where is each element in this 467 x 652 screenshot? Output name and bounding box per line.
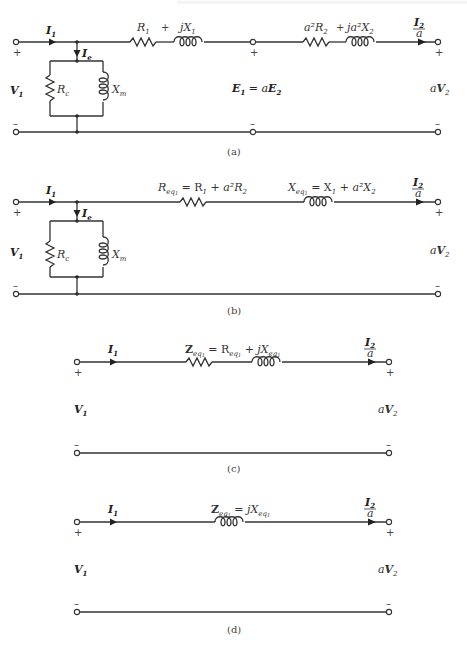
label-zeq1-expression: Zeq1 = jXeq1 bbox=[211, 503, 270, 518]
circuit-b: I1 Ie Rc Xm V1 Req1 = R1 + a²R2 Xeq1 = X… bbox=[10, 176, 450, 316]
resistor-req1-icon bbox=[180, 198, 206, 206]
excitation-current-arrow-icon bbox=[74, 50, 81, 57]
label-v1: V1 bbox=[10, 84, 23, 99]
label-ja2x2: ja²X2 bbox=[344, 21, 374, 36]
terminal-input-minus bbox=[13, 129, 18, 134]
svg-text:V1: V1 bbox=[74, 403, 87, 418]
label-jx1: jX1 bbox=[177, 21, 196, 36]
inductor-xeq1-icon bbox=[252, 357, 280, 366]
svg-text:aV2: aV2 bbox=[378, 403, 398, 418]
svg-text:a: a bbox=[367, 347, 374, 360]
current-arrow-icon bbox=[110, 359, 117, 366]
current-arrow-icon bbox=[49, 199, 56, 206]
label-a2r2: a²R2 bbox=[304, 21, 328, 36]
resistor-rc-icon bbox=[46, 75, 54, 101]
svg-text:+: + bbox=[13, 47, 21, 58]
caption-c: (c) bbox=[227, 463, 241, 474]
label-i2-over-a: I2 a bbox=[412, 176, 424, 200]
circuit-a: I1 Ie Rc Xm V1 R1 + jX1 a²R2 + ja²X2 E1 … bbox=[10, 16, 450, 157]
svg-text:I1: I1 bbox=[107, 343, 118, 358]
label-i1: I1 bbox=[45, 24, 56, 39]
label-rc: Rc bbox=[56, 83, 69, 98]
svg-text:–: – bbox=[435, 280, 440, 291]
caption-d: (d) bbox=[227, 624, 241, 635]
svg-text:aV2: aV2 bbox=[378, 563, 398, 578]
terminal-output-plus bbox=[435, 39, 440, 44]
svg-text:Ie: Ie bbox=[81, 207, 92, 222]
label-plus: + bbox=[336, 22, 344, 33]
label-req1-expression: Req1 = R1 + a²R2 bbox=[157, 181, 248, 196]
svg-text:–: – bbox=[74, 439, 79, 450]
svg-text:I1: I1 bbox=[45, 184, 56, 199]
label-av2: aV2 bbox=[430, 82, 450, 97]
label-e1-equals-ae2: E1 = aE2 bbox=[231, 82, 281, 97]
svg-text:a: a bbox=[416, 27, 423, 40]
resistor-req1-icon bbox=[186, 358, 212, 366]
label-xeq1-expression: Xeq1 = X1 + a²X2 bbox=[287, 181, 376, 196]
svg-text:aV2: aV2 bbox=[430, 244, 450, 259]
inductor-xm-icon bbox=[99, 72, 108, 100]
svg-text:+: + bbox=[13, 207, 21, 218]
inductor-a2x2-icon bbox=[346, 37, 374, 46]
inductor-x1-icon bbox=[174, 37, 202, 46]
current-arrow-icon bbox=[110, 519, 117, 526]
svg-text:Xm: Xm bbox=[111, 248, 127, 263]
svg-text:–: – bbox=[386, 439, 391, 450]
svg-text:+: + bbox=[386, 367, 394, 378]
label-plus: + bbox=[161, 22, 169, 33]
label-xm: Xm bbox=[111, 83, 127, 98]
label-r1: R1 bbox=[136, 21, 150, 36]
svg-text:a: a bbox=[415, 187, 422, 200]
terminal-e1-minus bbox=[250, 129, 255, 134]
svg-text:–: – bbox=[74, 598, 79, 609]
svg-text:–: – bbox=[435, 118, 440, 129]
svg-text:+: + bbox=[435, 47, 443, 58]
terminal-input-plus bbox=[13, 39, 18, 44]
inductor-xeq1-icon bbox=[215, 517, 243, 526]
svg-text:+: + bbox=[386, 527, 394, 538]
label-i2-over-a: I2 a bbox=[364, 336, 376, 360]
svg-text:–: – bbox=[13, 280, 18, 291]
current-arrow-icon bbox=[49, 39, 56, 46]
label-i2-over-a: I2 a bbox=[364, 496, 376, 520]
inductor-xm-icon bbox=[99, 237, 108, 265]
label-zeq1-expression: Zeq1 = Req1 + jXeq1 bbox=[185, 343, 280, 358]
svg-text:V1: V1 bbox=[74, 563, 87, 578]
resistor-a2r2-icon bbox=[303, 38, 329, 46]
resistor-rc-icon bbox=[46, 241, 54, 267]
svg-text:V1: V1 bbox=[10, 246, 23, 261]
inductor-xeq1-icon bbox=[304, 197, 332, 206]
svg-text:Rc: Rc bbox=[56, 248, 69, 263]
label-i2-over-a: I2 a bbox=[413, 16, 425, 40]
caption-b: (b) bbox=[227, 305, 241, 316]
terminal-e1-plus bbox=[250, 39, 255, 44]
svg-text:–: – bbox=[250, 118, 255, 129]
caption-a: (a) bbox=[227, 146, 241, 157]
svg-text:–: – bbox=[386, 598, 391, 609]
resistor-r1-icon bbox=[130, 38, 156, 46]
svg-text:a: a bbox=[367, 507, 374, 520]
svg-text:–: – bbox=[13, 118, 18, 129]
label-ie: Ie bbox=[81, 47, 92, 62]
circuit-d: I1 Zeq1 = jXeq1 I2 a V1 aV2 + + – – (d) bbox=[74, 496, 398, 635]
terminal-output-minus bbox=[435, 129, 440, 134]
svg-text:+: + bbox=[74, 527, 82, 538]
svg-text:I1: I1 bbox=[107, 503, 118, 518]
svg-text:+: + bbox=[435, 207, 443, 218]
circuit-c: I1 Zeq1 = Req1 + jXeq1 I2 a V1 aV2 + + –… bbox=[74, 336, 398, 474]
equivalent-circuits-figure: I1 Ie Rc Xm V1 R1 + jX1 a²R2 + ja²X2 E1 … bbox=[0, 0, 467, 652]
svg-text:+: + bbox=[74, 367, 82, 378]
svg-text:+: + bbox=[250, 47, 258, 58]
